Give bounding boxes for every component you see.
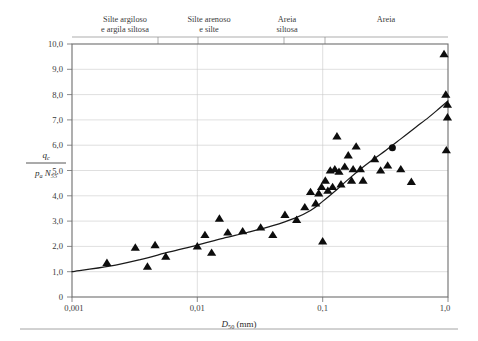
category-label-1-line2: e argila siltosa (101, 25, 149, 34)
y-axis-n-subscript: 55 (51, 172, 57, 179)
ytick-label-9: 9,0 (52, 64, 63, 74)
xtick-label-1p0: 1,0 (440, 303, 451, 313)
ytick-label-4: 4,0 (52, 191, 63, 201)
series-1-markers (389, 144, 396, 151)
ytick-label-1: 1,0 (52, 267, 63, 277)
ytick-label-10: 10,0 (48, 39, 63, 49)
y-axis-qc-subscript: c (47, 154, 50, 161)
category-label-2-line1: Silte arenoso (187, 15, 230, 24)
ytick-label-8: 8,0 (52, 90, 63, 100)
chart-canvas: Silte argiloso e argila siltosa Silte ar… (0, 0, 478, 341)
xtick-label-0p1: 0,1 (317, 303, 328, 313)
x-axis-units: (mm) (236, 319, 256, 329)
xtick-label-0p01: 0,01 (190, 303, 205, 313)
ytick-label-0: 0 (59, 292, 63, 302)
x-axis-title: D50 (mm) (221, 319, 257, 330)
ytick-label-6: 6,0 (52, 140, 63, 150)
ytick-label-7: 7,0 (52, 115, 63, 125)
data-point-circle (389, 144, 396, 151)
ytick-label-3: 3,0 (52, 216, 63, 226)
category-label-3-line1: Areia (278, 15, 297, 24)
category-label-2-line2: e silte (199, 25, 219, 34)
category-label-1-line1: Silte argiloso (103, 15, 147, 24)
category-label-4-line1: Areia (377, 15, 396, 24)
chart-figure: Silte argiloso e argila siltosa Silte ar… (0, 0, 478, 341)
ytick-label-2: 2,0 (52, 241, 63, 251)
category-label-3-line2: siltosa (276, 25, 298, 34)
xtick-label-0p001: 0,001 (64, 303, 83, 313)
